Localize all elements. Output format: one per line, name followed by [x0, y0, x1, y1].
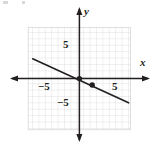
plotted-point-second — [90, 82, 95, 87]
plotted-point-origin — [77, 76, 82, 81]
scan-artifact-right — [22, 1, 25, 4]
y-tick-label-negative-five: −5 — [57, 97, 69, 108]
scan-artifact-left — [3, 1, 8, 4]
coordinate-plane-figure: x y −5 5 5 −5 — [0, 0, 160, 144]
x-axis-label: x — [140, 57, 146, 68]
graph-canvas — [0, 0, 160, 144]
x-tick-label-negative-five: −5 — [38, 81, 50, 92]
y-tick-label-positive-five: 5 — [63, 39, 69, 50]
y-axis-label: y — [84, 6, 89, 17]
x-tick-label-positive-five: 5 — [112, 81, 118, 92]
